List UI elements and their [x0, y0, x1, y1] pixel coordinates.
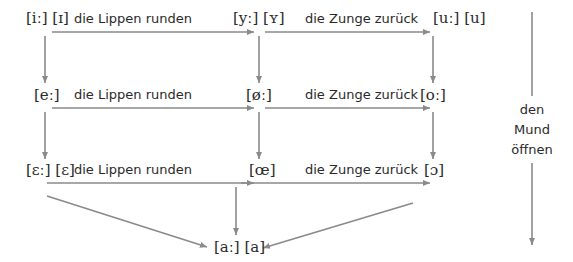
label-round-row1: die Lippen runden — [74, 10, 192, 28]
label-round-row3: die Lippen runden — [74, 161, 192, 179]
arrow-layer — [0, 0, 573, 262]
arrow-diag-left — [47, 196, 207, 247]
vowel-rounded-mid: [øː] — [246, 86, 272, 104]
side-label-open-mouth: den Mund öffnen — [502, 100, 562, 160]
label-round-row2: die Lippen runden — [74, 86, 192, 104]
side-label-line1: den — [502, 100, 562, 120]
side-label-line2: Mund — [502, 120, 562, 140]
vowel-rounded-open-mid: [œ] — [249, 161, 276, 179]
label-back-row2: die Zunge zurück — [305, 86, 418, 104]
arrow-diag-right — [263, 203, 413, 248]
vowel-front-open-mid: [ɛː] [ɛ] — [26, 161, 75, 179]
vowel-front-mid: [eː] — [34, 86, 60, 104]
vowel-open: [aː] [a] — [214, 238, 265, 256]
vowel-back-close: [uː] [u] — [433, 9, 486, 27]
label-back-row3: die Zunge zurück — [305, 161, 418, 179]
vowel-diagram: [iː] [ɪ] die Lippen runden [yː] [ʏ] die … — [0, 0, 573, 262]
vowel-back-mid: [oː] — [420, 86, 446, 104]
label-back-row1: die Zunge zurück — [305, 10, 418, 28]
side-label-line3: öffnen — [502, 140, 562, 160]
vowel-front-close: [iː] [ɪ] — [26, 9, 69, 27]
vowel-rounded-close: [yː] [ʏ] — [233, 9, 285, 27]
vowel-back-open-mid: [ɔ] — [424, 161, 444, 179]
